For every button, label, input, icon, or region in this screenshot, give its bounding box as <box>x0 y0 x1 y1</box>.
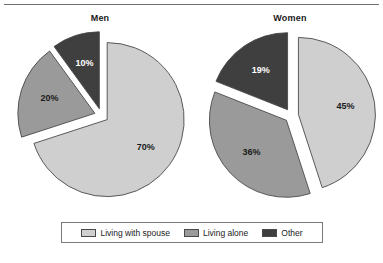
legend-color-swatch <box>262 229 277 237</box>
pie-slice-value-label: 45% <box>337 101 355 111</box>
legend-entry: Living alone <box>184 228 248 238</box>
legend-color-swatch <box>81 229 96 237</box>
pie-chart-men: 70%20%10% <box>14 28 189 203</box>
chart-title-men: Men <box>50 13 150 23</box>
pie-slice-value-label: 70% <box>137 142 155 152</box>
pie-slice <box>298 37 375 187</box>
legend-label: Other <box>281 228 302 238</box>
pie-slice-value-label: 36% <box>243 147 261 157</box>
pie-slice-value-label: 20% <box>40 93 58 103</box>
legend-color-swatch <box>184 229 199 237</box>
legend-label: Living alone <box>203 228 248 238</box>
legend-entry: Other <box>262 228 302 238</box>
pie-slice-value-label: 19% <box>252 65 270 75</box>
pie-slice <box>209 92 310 197</box>
legend-entry: Living with spouse <box>81 228 169 238</box>
chart-title-women: Women <box>240 13 340 23</box>
pie-chart-women: 45%36%19% <box>204 28 379 203</box>
pie-slice-value-label: 10% <box>76 58 94 68</box>
pie-chart-figure: Men Women 70%20%10% 45%36%19% Living wit… <box>0 0 383 263</box>
chart-legend: Living with spouseLiving aloneOther <box>61 222 323 243</box>
legend-label: Living with spouse <box>100 228 169 238</box>
top-divider-rule <box>4 4 379 5</box>
